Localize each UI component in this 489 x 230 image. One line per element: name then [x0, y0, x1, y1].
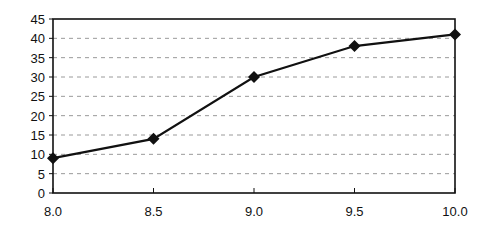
y-tick-label: 10 [31, 147, 45, 162]
x-tick-label: 10.0 [442, 204, 467, 219]
y-tick-label: 40 [31, 31, 45, 46]
diamond-marker [349, 40, 361, 52]
y-tick-label: 25 [31, 89, 45, 104]
y-tick-label: 35 [31, 51, 45, 66]
x-tick-label: 9.5 [345, 204, 363, 219]
y-axis: 051015202530354045 [31, 12, 53, 201]
plot-frame [53, 19, 455, 193]
x-tick-label: 8.5 [144, 204, 162, 219]
x-tick-label: 9.0 [245, 204, 263, 219]
y-tick-label: 45 [31, 12, 45, 27]
y-tick-label: 5 [38, 167, 45, 182]
diamond-marker [47, 152, 59, 164]
y-tick-label: 20 [31, 109, 45, 124]
diamond-marker [248, 71, 260, 83]
line-chart: 051015202530354045 8.08.59.09.510.0 [0, 0, 489, 230]
y-tick-label: 0 [38, 186, 45, 201]
gridlines [53, 38, 455, 173]
diamond-marker [449, 28, 461, 40]
x-tick-label: 8.0 [44, 204, 62, 219]
y-tick-label: 30 [31, 70, 45, 85]
y-tick-label: 15 [31, 128, 45, 143]
